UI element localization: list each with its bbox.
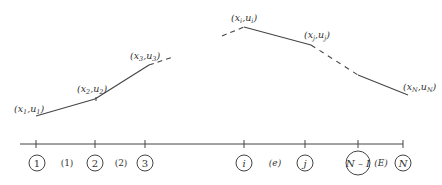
node-label-3: 3 <box>142 158 148 169</box>
segment-E <box>358 75 408 95</box>
element-label-E: (E) <box>374 158 388 168</box>
finite-element-diagram: (x1,u1) (x2,u2) (x3,u3) (xi,ui) (xj,uj) … <box>0 0 442 185</box>
node-label-N: N <box>398 158 409 169</box>
segment-1 <box>36 99 95 116</box>
element-label-1: (1) <box>61 158 74 168</box>
element-label-e: (e) <box>269 158 282 168</box>
point-label-N: (xN,uN) <box>403 81 437 94</box>
node-label-j: j <box>301 158 306 169</box>
segment-post-j-dashed <box>311 45 358 75</box>
node-label-N-1: N – I <box>345 158 371 169</box>
node-label-i: i <box>242 158 245 169</box>
point-label-j: (xj,uj) <box>304 29 330 42</box>
element-label-2: (2) <box>115 158 128 168</box>
node-label-1: 1 <box>34 158 40 169</box>
point-label-2: (x2,u2) <box>77 83 108 96</box>
point-label-3: (x3,u3) <box>130 50 161 63</box>
point-label-i: (xi,ui) <box>231 12 257 25</box>
node-label-2: 2 <box>92 158 98 169</box>
point-label-1: (x1,u1) <box>14 103 45 116</box>
segment-pre-i-dashed <box>222 27 244 36</box>
segment-e <box>244 27 311 45</box>
